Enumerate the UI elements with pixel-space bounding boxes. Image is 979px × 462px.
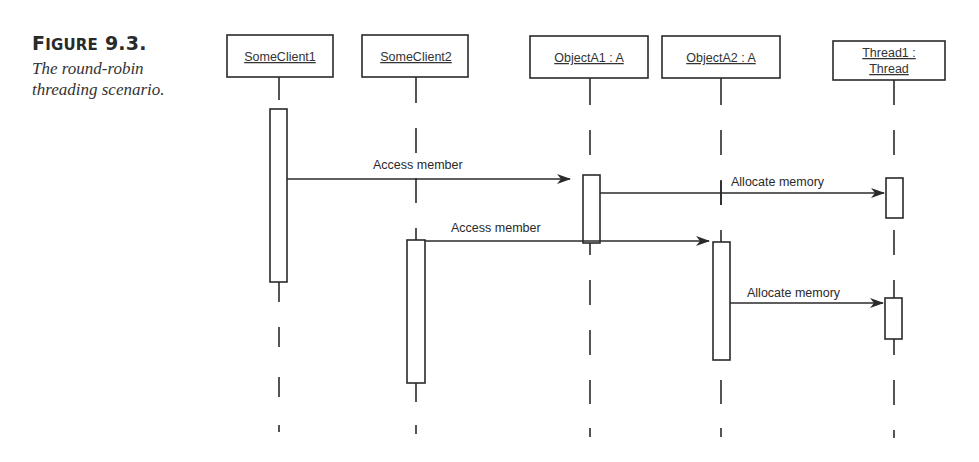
object-label: ObjectA1 : A bbox=[554, 51, 624, 65]
object-objecta2: ObjectA2 : A bbox=[662, 36, 780, 78]
message-label: Allocate memory bbox=[747, 286, 841, 300]
object-someclient1: SomeClient1 bbox=[227, 35, 333, 77]
activation-someclient2 bbox=[407, 240, 425, 383]
object-thread1: Thread1 : Thread bbox=[833, 41, 945, 80]
message-label: Access member bbox=[373, 158, 463, 172]
message-label: Access member bbox=[451, 221, 541, 235]
message-access-member-2: Access member bbox=[425, 221, 709, 241]
message-label: Allocate memory bbox=[731, 175, 825, 189]
activation-someclient1 bbox=[270, 109, 287, 282]
object-label: SomeClient2 bbox=[380, 50, 452, 64]
activation-thread1-second bbox=[885, 298, 902, 339]
object-label-line2: Thread bbox=[869, 62, 909, 76]
object-someclient2: SomeClient2 bbox=[362, 35, 468, 77]
object-label: SomeClient1 bbox=[244, 50, 316, 64]
object-objecta1: ObjectA1 : A bbox=[530, 36, 648, 78]
object-label: ObjectA2 : A bbox=[686, 51, 756, 65]
object-label-line1: Thread1 : bbox=[862, 46, 916, 60]
activation-thread1-first bbox=[886, 178, 903, 218]
activation-objecta2 bbox=[713, 242, 730, 360]
message-access-member-1: Access member bbox=[287, 158, 570, 179]
activation-objecta1 bbox=[583, 175, 600, 243]
message-allocate-memory-1: Allocate memory bbox=[600, 175, 884, 205]
sequence-diagram: SomeClient1 SomeClient2 ObjectA1 : A Obj… bbox=[0, 0, 979, 462]
message-allocate-memory-2: Allocate memory bbox=[730, 286, 883, 303]
